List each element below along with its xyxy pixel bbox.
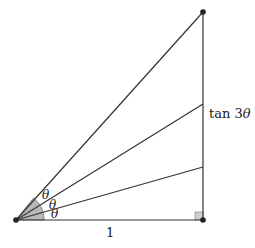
opposite-side-label: tan 3θ [209,106,251,121]
origin-point [13,217,19,223]
opposite-side-theta: θ [243,106,251,121]
base-length-label: 1 [106,225,114,240]
right-angle-point [200,217,206,223]
theta-label-middle: θ [49,198,57,212]
opposite-side-prefix: tan 3 [209,106,243,121]
ray-2theta [16,104,203,220]
tan-triple-angle-diagram: θ θ θ 1 tan 3θ [0,0,255,248]
top-point [200,9,206,15]
theta-label-upper: θ [42,188,50,202]
